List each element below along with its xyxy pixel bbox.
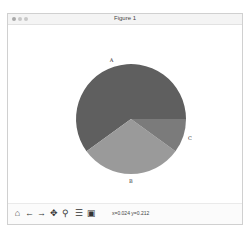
back-icon[interactable]: ←	[24, 208, 35, 219]
save-icon[interactable]: ▣	[86, 208, 97, 219]
pie-chart	[8, 25, 244, 205]
configure-subplots-icon[interactable]: ☰	[73, 208, 84, 219]
pie-label-b: B	[129, 178, 133, 184]
pie-label-c: C	[188, 135, 192, 141]
zoom-icon[interactable]: ⚲	[60, 208, 71, 219]
pie-label-a: A	[110, 57, 114, 63]
navigation-toolbar: ⌂ ← → ✥ ⚲ ☰ ▣ x=0.024 y=0.212	[8, 203, 242, 224]
pan-icon[interactable]: ✥	[48, 208, 59, 219]
figure-window: Figure 1 A B C ⌂ ← → ✥ ⚲ ☰ ▣ x=0.024 y=0…	[7, 13, 243, 225]
forward-icon[interactable]: →	[36, 208, 47, 219]
cursor-coordinates: x=0.024 y=0.212	[112, 210, 149, 216]
window-title: Figure 1	[8, 15, 242, 21]
home-icon[interactable]: ⌂	[12, 208, 23, 219]
title-bar: Figure 1	[8, 14, 242, 25]
figure-canvas[interactable]: A B C	[8, 25, 242, 205]
